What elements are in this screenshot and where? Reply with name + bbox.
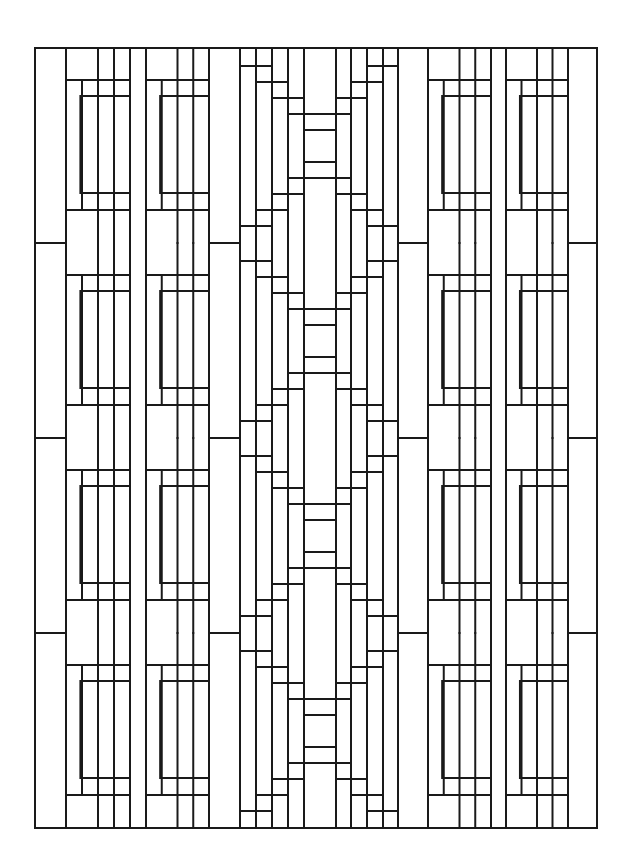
geometric-line-pattern bbox=[0, 0, 632, 867]
